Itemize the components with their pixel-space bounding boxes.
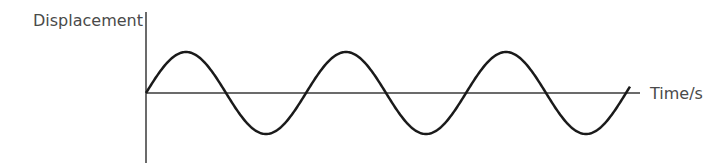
y-axis-label: Displacement	[33, 11, 143, 30]
displacement-time-graph: Displacement Time/s	[0, 0, 723, 163]
x-axis-label: Time/s	[649, 84, 703, 103]
